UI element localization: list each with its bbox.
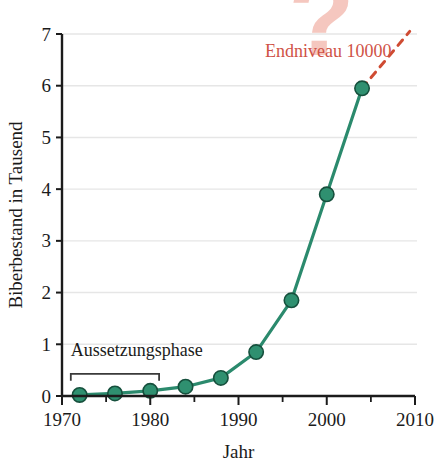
y-axis-tick-label: 5 bbox=[42, 127, 52, 148]
data-point-marker bbox=[214, 371, 228, 385]
y-axis-tick-label: 7 bbox=[42, 24, 52, 45]
data-point-marker bbox=[178, 379, 192, 393]
y-axis-tick-label: 3 bbox=[42, 230, 52, 251]
data-point-marker bbox=[108, 386, 122, 400]
x-axis-title: Jahr bbox=[223, 441, 255, 462]
data-point-marker bbox=[249, 345, 263, 359]
y-axis-tick-label: 6 bbox=[42, 75, 52, 96]
data-point-marker bbox=[320, 187, 334, 201]
y-axis-tick-label: 1 bbox=[42, 334, 52, 355]
aussetzungsphase-label: Aussetzungsphase bbox=[71, 340, 203, 360]
beaver-population-chart: ? 01234567 19701980199020002010 Biberbes… bbox=[0, 0, 443, 472]
endniveau-annotation-label: Endniveau 10000 bbox=[265, 41, 391, 61]
chart-canvas: ? 01234567 19701980199020002010 Biberbes… bbox=[0, 0, 443, 472]
x-axis-tick-label: 2010 bbox=[396, 409, 434, 430]
x-axis-tick-label: 1990 bbox=[220, 409, 258, 430]
data-point-marker bbox=[284, 293, 298, 307]
y-axis-tick-label: 2 bbox=[42, 282, 52, 303]
x-axis-tick-label: 1980 bbox=[131, 409, 169, 430]
y-axis-tick-label: 0 bbox=[42, 386, 52, 407]
y-axis-title: Biberbestand in Tausend bbox=[5, 121, 26, 309]
y-axis-tick-label: 4 bbox=[42, 179, 52, 200]
question-mark-watermark-group: ? bbox=[288, 0, 354, 78]
question-mark-icon: ? bbox=[288, 0, 354, 78]
x-axis-tick-label: 1970 bbox=[43, 409, 81, 430]
x-axis-tick-label: 2000 bbox=[308, 409, 346, 430]
data-point-marker bbox=[355, 81, 369, 95]
chart-background bbox=[0, 0, 443, 472]
